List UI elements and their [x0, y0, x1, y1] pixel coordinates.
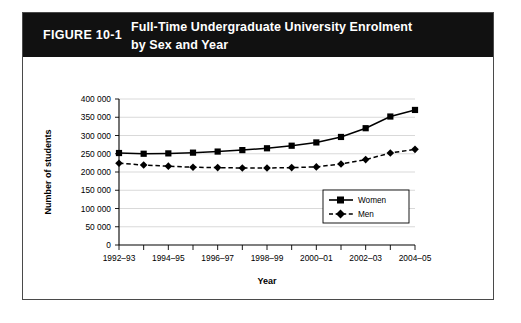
- data-point-men: [239, 164, 247, 172]
- series-markers-women: [116, 107, 418, 157]
- data-point-men: [165, 162, 173, 170]
- enrolment-line-chart: 050 000100 000150 000200 000250 000300 0…: [23, 57, 492, 301]
- data-point-men: [214, 164, 222, 172]
- x-tick-label: 2002–03: [349, 253, 382, 263]
- figure-title-line-1: Full-Time Undergraduate University Enrol…: [131, 20, 412, 34]
- data-point-men: [189, 163, 197, 171]
- x-tick-label: 1998–99: [251, 253, 284, 263]
- data-point-women: [190, 150, 196, 156]
- chart-plot-area: 050 000100 000150 000200 000250 000300 0…: [23, 57, 493, 301]
- figure-number-label: FIGURE 10-1: [43, 28, 131, 42]
- data-point-women: [215, 148, 221, 154]
- y-tick-label: 150 000: [81, 185, 112, 195]
- y-tick-label: 250 000: [81, 149, 112, 159]
- y-tick-label: 100 000: [81, 204, 112, 214]
- data-point-men: [387, 149, 395, 157]
- data-point-men: [115, 159, 123, 167]
- data-point-women: [363, 125, 369, 131]
- data-point-women: [264, 145, 270, 151]
- data-point-women: [313, 139, 319, 145]
- data-point-women: [289, 143, 295, 149]
- figure-title-block: Full-Time Undergraduate University Enrol…: [131, 17, 412, 53]
- data-point-women: [165, 150, 171, 156]
- data-point-men: [337, 160, 345, 168]
- y-tick-label: 0: [106, 240, 111, 250]
- legend-marker-women: [337, 197, 344, 204]
- figure-title-line-2: by Sex and Year: [131, 38, 228, 52]
- data-point-women: [412, 107, 418, 113]
- data-point-men: [362, 156, 370, 164]
- y-axis-ticks: 050 000100 000150 000200 000250 000300 0…: [81, 94, 119, 250]
- y-tick-label: 350 000: [81, 112, 112, 122]
- y-tick-label: 200 000: [81, 167, 112, 177]
- legend-label-women: Women: [358, 196, 387, 205]
- x-tick-label: 1994–95: [152, 253, 185, 263]
- data-point-women: [387, 113, 393, 119]
- data-point-men: [140, 161, 148, 169]
- data-point-women: [116, 150, 122, 156]
- data-point-men: [411, 146, 419, 154]
- figure-container: FIGURE 10-1 Full-Time Undergraduate Univ…: [22, 12, 494, 300]
- x-tick-label: 1992–93: [103, 253, 136, 263]
- data-point-men: [288, 164, 296, 172]
- legend-label-men: Men: [358, 210, 374, 219]
- figure-header-band: FIGURE 10-1 Full-Time Undergraduate Univ…: [23, 13, 493, 57]
- data-point-men: [313, 163, 321, 171]
- data-point-women: [141, 151, 147, 157]
- x-axis-ticks: 1992–931994–951996–971998–992000–012002–…: [103, 245, 432, 263]
- x-tick-label: 2000–01: [300, 253, 333, 263]
- x-axis-title: Year: [257, 276, 277, 286]
- y-tick-label: 300 000: [81, 131, 112, 141]
- y-axis-title: Number of students: [43, 129, 53, 214]
- data-point-women: [239, 147, 245, 153]
- chart-legend[interactable]: Women Men: [323, 190, 409, 223]
- x-tick-label: 1996–97: [201, 253, 234, 263]
- y-tick-label: 50 000: [85, 222, 111, 232]
- data-point-women: [338, 134, 344, 140]
- x-tick-label: 2004–05: [399, 253, 432, 263]
- data-point-men: [263, 164, 271, 172]
- y-tick-label: 400 000: [81, 94, 112, 104]
